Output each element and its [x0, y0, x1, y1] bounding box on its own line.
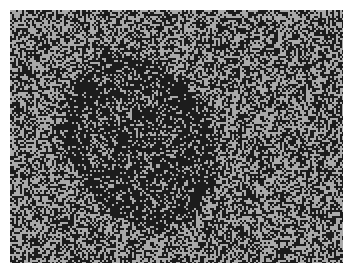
noise-image-panel — [10, 10, 343, 263]
